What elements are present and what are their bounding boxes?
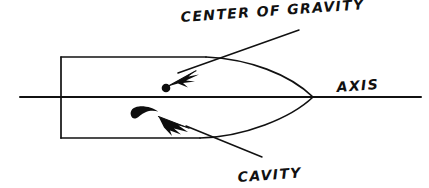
cavity-arrowhead (159, 117, 190, 137)
axis-label: AXIS (335, 76, 380, 95)
center-of-gravity-label: CENTER OF GRAVITY (180, 0, 365, 25)
center-of-gravity-arrowhead (168, 71, 200, 88)
body-lower-tail-curve (200, 97, 313, 138)
body-upper-tail-curve (206, 57, 313, 97)
cavity-marker (131, 106, 159, 118)
center-of-gravity-leader-line (178, 30, 299, 73)
figure-container: CENTER OF GRAVITY CAVITY AXIS (0, 0, 429, 188)
engineering-sketch: CENTER OF GRAVITY CAVITY AXIS (0, 0, 429, 188)
cavity-label: CAVITY (237, 165, 303, 185)
center-of-gravity-dot (162, 84, 171, 93)
